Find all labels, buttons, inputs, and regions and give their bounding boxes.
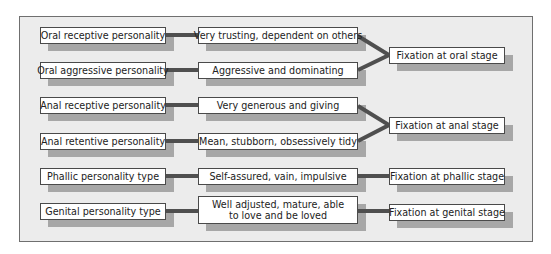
personality-box-oral-receptive: Oral receptive personality: [40, 27, 166, 44]
traits-box-phallic: Self-assured, vain, impulsive: [198, 168, 358, 185]
traits-box-oral-aggressive: Aggressive and dominating: [198, 62, 358, 79]
traits-line-2: to love and be loved: [229, 210, 327, 221]
fixation-box-anal: Fixation at anal stage: [389, 117, 505, 134]
personality-box-phallic: Phallic personality type: [40, 168, 166, 185]
traits-box-oral-receptive: Very trusting, dependent on others: [198, 27, 358, 44]
traits-box-genital: Well adjusted, mature, able to love and …: [198, 196, 358, 224]
personality-box-genital: Genital personality type: [40, 203, 166, 220]
fixation-box-genital: Fixation at genital stage: [389, 204, 505, 221]
fixation-box-phallic: Fixation at phallic stage: [389, 168, 505, 185]
personality-box-anal-retentive: Anal retentive personality: [40, 133, 166, 150]
traits-line-1: Well adjusted, mature, able: [212, 199, 344, 210]
fixation-box-oral: Fixation at oral stage: [389, 47, 505, 64]
personality-box-oral-aggressive: Oral aggressive personality: [40, 62, 166, 79]
personality-box-anal-receptive: Anal receptive personality: [40, 97, 166, 114]
traits-box-anal-receptive: Very generous and giving: [198, 97, 358, 114]
traits-box-anal-retentive: Mean, stubborn, obsessively tidy: [198, 133, 358, 150]
